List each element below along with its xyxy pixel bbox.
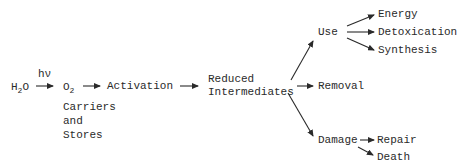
arrow-use-to-synthesis bbox=[347, 38, 374, 50]
edge-label-light: hν bbox=[38, 68, 51, 80]
node-reduced-line-2: Intermediates bbox=[208, 86, 294, 98]
node-detoxication: Detoxication bbox=[378, 26, 457, 38]
node-carriers-line-2: and bbox=[63, 115, 83, 127]
arrow-reduced-to-use bbox=[291, 41, 313, 80]
node-repair: Repair bbox=[377, 134, 417, 146]
node-damage: Damage bbox=[318, 134, 358, 146]
node-carriers-line-1: Carriers bbox=[63, 101, 116, 113]
arrow-damage-to-death bbox=[358, 147, 373, 155]
node-energy: Energy bbox=[378, 8, 418, 20]
node-oxygen: O2 bbox=[63, 81, 74, 94]
node-reduced-line-1: Reduced bbox=[208, 73, 254, 85]
node-synthesis: Synthesis bbox=[378, 44, 437, 56]
arrow-use-to-energy bbox=[347, 15, 374, 26]
node-death: Death bbox=[377, 151, 410, 163]
node-water: H2O bbox=[11, 81, 29, 94]
node-carriers-line-3: Stores bbox=[63, 129, 103, 141]
node-use: Use bbox=[318, 26, 338, 38]
arrow-reduced-to-damage bbox=[288, 93, 313, 136]
node-activation: Activation bbox=[107, 80, 173, 92]
node-removal: Removal bbox=[318, 80, 364, 92]
